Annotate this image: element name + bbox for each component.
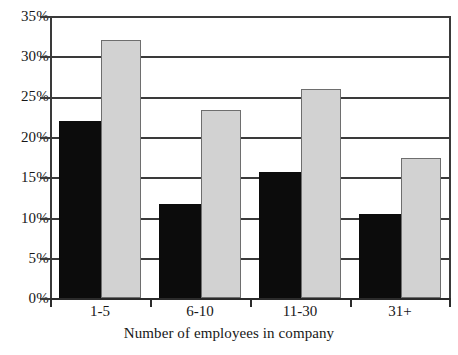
bar-light-1-5 — [101, 40, 141, 298]
bar-dark-6-10 — [159, 204, 201, 298]
bar-light-6-10 — [201, 110, 241, 298]
x-axis-labels: 1-5 6-10 11-30 31+ — [51, 302, 451, 324]
bar-dark-1-5 — [59, 121, 101, 298]
bar-chart: 35% 30% 25% 20% 15% 10% 5% 0% — [0, 0, 458, 355]
x-axis-tick-label-31-plus: 31+ — [388, 302, 411, 320]
gridline-35 — [51, 16, 450, 18]
y-axis-line — [50, 16, 52, 299]
plot-right-border — [449, 16, 451, 299]
bar-dark-31-plus — [359, 214, 401, 298]
x-axis-tick-label-11-30: 11-30 — [283, 302, 317, 320]
bar-light-11-30 — [301, 89, 341, 298]
x-axis-tick-label-1-5: 1-5 — [90, 302, 110, 320]
x-axis-title: Number of employees in company — [0, 324, 458, 342]
bar-light-31-plus — [401, 158, 441, 298]
bar-dark-11-30 — [259, 172, 301, 298]
y-axis-tick-label: 25% — [5, 89, 49, 104]
plot-area — [51, 16, 450, 298]
x-axis-tick-label-6-10: 6-10 — [186, 302, 214, 320]
